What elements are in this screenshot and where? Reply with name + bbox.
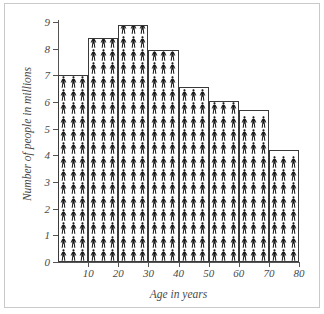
person-icon (60, 169, 67, 181)
person-icon (130, 196, 137, 208)
person-icon (109, 116, 116, 128)
pictogram-row (270, 168, 298, 181)
person-icon (109, 62, 116, 74)
person-icon (70, 76, 77, 88)
y-tick-label-9: 9 (28, 17, 50, 28)
pictogram-row (240, 128, 268, 141)
person-icon (181, 209, 188, 221)
pictogram-row (119, 141, 147, 154)
person-icon (211, 209, 218, 221)
pictogram-row (210, 194, 238, 207)
person-icon (120, 89, 127, 101)
person-icon (130, 169, 137, 181)
person-icon (60, 89, 67, 101)
pictogram-row (149, 141, 177, 154)
pictogram-row (89, 61, 117, 74)
person-icon (160, 222, 167, 234)
person-icon (250, 196, 257, 208)
pictogram-row (149, 61, 177, 74)
person-icon (90, 249, 97, 261)
person-icon (290, 156, 297, 168)
person-icon (290, 196, 297, 208)
person-icon (109, 182, 116, 194)
person-icon (151, 50, 158, 61)
person-icon (109, 222, 116, 234)
person-icon (139, 76, 146, 88)
person-icon (220, 129, 227, 141)
person-icon (60, 222, 67, 234)
person-icon (181, 249, 188, 261)
person-icon (151, 62, 158, 74)
person-icon (220, 102, 227, 114)
bar-40-50 (179, 87, 209, 262)
person-icon (250, 182, 257, 194)
pictogram-row (149, 114, 177, 127)
pictogram-row (149, 234, 177, 247)
person-icon (220, 156, 227, 168)
person-icon (139, 222, 146, 234)
pictogram-row (119, 114, 147, 127)
pictogram-row (149, 88, 177, 101)
person-icon (100, 156, 107, 168)
person-icon (230, 116, 237, 128)
person-icon (79, 222, 86, 234)
person-icon (70, 182, 77, 194)
person-icon (70, 129, 77, 141)
person-icon (169, 129, 176, 141)
person-icon (139, 89, 146, 101)
person-icon (160, 156, 167, 168)
pictogram-row (59, 248, 87, 261)
x-axis-title: Age in years (58, 288, 299, 300)
y-tick-label-1: 1 (28, 230, 50, 241)
person-icon (241, 142, 248, 154)
person-icon (90, 102, 97, 114)
person-icon (169, 116, 176, 128)
pictogram-row (119, 194, 147, 207)
y-tick-9 (53, 22, 58, 23)
person-icon (60, 102, 67, 114)
person-icon (160, 89, 167, 101)
pictogram-row (119, 128, 147, 141)
person-icon (109, 102, 116, 114)
person-icon (260, 156, 267, 168)
person-icon (130, 182, 137, 194)
person-icon (100, 62, 107, 74)
pictogram-row (149, 181, 177, 194)
person-icon (160, 209, 167, 221)
person-icon (151, 182, 158, 194)
pictogram-row (119, 248, 147, 261)
y-tick-0 (53, 262, 58, 263)
person-icon (109, 49, 116, 61)
person-icon (139, 236, 146, 248)
person-icon (90, 182, 97, 194)
person-icon (190, 209, 197, 221)
person-icon (199, 102, 206, 114)
person-icon (100, 129, 107, 141)
person-icon (181, 169, 188, 181)
person-icon (90, 62, 97, 74)
pictogram-row (210, 234, 238, 247)
x-tick-label-50: 50 (194, 268, 224, 279)
person-icon (79, 156, 86, 168)
person-icon (79, 196, 86, 208)
person-icon (90, 196, 97, 208)
person-icon (120, 102, 127, 114)
person-icon (139, 182, 146, 194)
person-icon (70, 209, 77, 221)
person-icon (130, 62, 137, 74)
person-icon (79, 102, 86, 114)
pictogram-row (149, 208, 177, 221)
pictogram-row (119, 74, 147, 87)
person-icon (139, 102, 146, 114)
bar-30-40 (148, 50, 178, 262)
person-icon (169, 209, 176, 221)
person-icon (60, 196, 67, 208)
person-icon (120, 209, 127, 221)
pictogram-row (89, 128, 117, 141)
person-icon (139, 25, 146, 35)
pictogram-row (89, 154, 117, 167)
person-icon (211, 249, 218, 261)
person-icon (109, 209, 116, 221)
pictogram-row (59, 101, 87, 114)
pictogram-row (119, 221, 147, 234)
